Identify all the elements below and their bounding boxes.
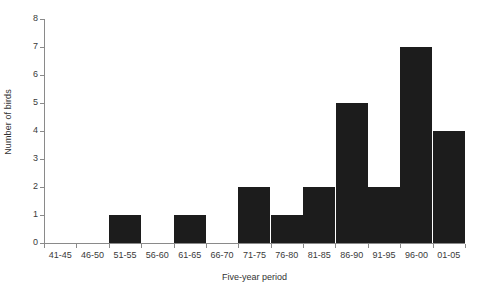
y-axis-title-text: Number of birds — [3, 89, 13, 155]
y-axis-tick-label: 3 — [26, 154, 38, 163]
x-axis-tick-label: 76-80 — [271, 250, 303, 261]
bar-slot — [206, 19, 238, 243]
x-axis-tick-mark — [335, 244, 336, 248]
bar-slot — [433, 19, 465, 243]
x-axis-tick-label: 66-70 — [206, 250, 238, 261]
x-axis-tick-label: 46-50 — [76, 250, 108, 261]
bar-slot — [400, 19, 432, 243]
x-axis-tick-label: 86-90 — [335, 250, 367, 261]
bar — [368, 187, 400, 243]
x-axis-tick-label: 61-65 — [174, 250, 206, 261]
y-axis-tick-label: 0 — [26, 238, 38, 247]
x-axis-tick-label: 51-55 — [109, 250, 141, 261]
x-axis-tick-mark — [76, 244, 77, 248]
x-axis-tick-mark — [433, 244, 434, 248]
bar-chart: Number of birds 012345678 41-4546-5051-5… — [0, 0, 487, 300]
y-axis-title: Number of birds — [0, 0, 16, 243]
x-axis-tick-mark — [174, 244, 175, 248]
bar — [271, 215, 303, 243]
bar-slot — [271, 19, 303, 243]
bar — [109, 215, 141, 243]
x-axis-tick-marks — [44, 244, 465, 248]
x-axis-tick-mark — [465, 244, 466, 248]
x-axis-tick-mark — [206, 244, 207, 248]
bar — [433, 131, 465, 243]
x-axis-tick-mark — [368, 244, 369, 248]
bar-slot — [174, 19, 206, 243]
x-axis-tick-label: 01-05 — [433, 250, 465, 261]
bar-slot — [303, 19, 335, 243]
bar-slot — [76, 19, 108, 243]
bar-slot — [335, 19, 367, 243]
y-axis-tick-label: 8 — [26, 14, 38, 23]
bar-slot — [238, 19, 270, 243]
bar — [174, 215, 206, 243]
x-axis-tick-label: 91-95 — [368, 250, 400, 261]
x-axis-tick-mark — [303, 244, 304, 248]
bar — [303, 187, 335, 243]
bar — [336, 103, 368, 243]
bar-slot — [368, 19, 400, 243]
x-axis-tick-mark — [141, 244, 142, 248]
x-axis-tick-labels: 41-4546-5051-5556-6061-6566-7071-7576-80… — [44, 250, 465, 264]
bar — [238, 187, 270, 243]
x-axis-tick-label: 96-00 — [400, 250, 432, 261]
x-axis-tick-mark — [44, 244, 45, 248]
x-axis-tick-label: 81-85 — [303, 250, 335, 261]
y-axis-tick-labels: 012345678 — [22, 0, 38, 300]
bar-slot — [141, 19, 173, 243]
y-axis-tick-label: 4 — [26, 126, 38, 135]
x-axis-title: Five-year period — [44, 272, 465, 282]
y-axis-tick-label: 1 — [26, 210, 38, 219]
bar-slot — [44, 19, 76, 243]
x-axis-tick-mark — [400, 244, 401, 248]
bar — [400, 47, 432, 243]
x-axis-tick-label: 41-45 — [44, 250, 76, 261]
x-axis-tick-mark — [271, 244, 272, 248]
bar-slot — [109, 19, 141, 243]
plot-area — [44, 19, 465, 243]
y-axis-tick-label: 6 — [26, 70, 38, 79]
x-axis-tick-label: 56-60 — [141, 250, 173, 261]
x-axis-tick-label: 71-75 — [238, 250, 270, 261]
y-axis-tick-label: 2 — [26, 182, 38, 191]
x-axis-tick-mark — [238, 244, 239, 248]
x-axis-tick-mark — [109, 244, 110, 248]
y-axis-tick-label: 7 — [26, 42, 38, 51]
y-axis-tick-label: 5 — [26, 98, 38, 107]
